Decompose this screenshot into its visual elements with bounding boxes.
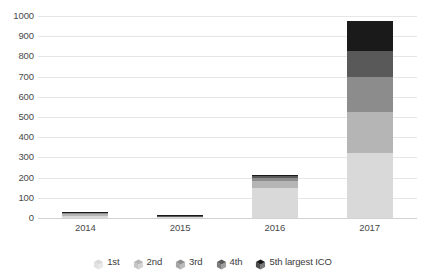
x-tick-label: 2016 (265, 222, 286, 234)
y-tick-label: 100 (0, 193, 34, 203)
legend-item[interactable]: 5th largest ICO (255, 256, 331, 267)
bar-segment[interactable] (347, 112, 393, 153)
y-tick-label: 900 (0, 31, 34, 41)
y-tick-label: 800 (0, 51, 34, 61)
cube-icon (133, 256, 144, 267)
plot-area (38, 16, 417, 218)
cube-icon (175, 256, 186, 267)
bar-segment[interactable] (252, 176, 298, 178)
bar-segment[interactable] (347, 77, 393, 112)
y-tick-label: 1000 (0, 11, 34, 21)
bar-segment[interactable] (252, 181, 298, 187)
legend-item[interactable]: 2nd (133, 256, 163, 267)
legend-label: 5th largest ICO (269, 256, 331, 267)
x-tick-label: 2014 (75, 222, 96, 234)
bar-segment[interactable] (252, 178, 298, 181)
bar-group[interactable] (62, 16, 108, 218)
y-tick-label: 600 (0, 92, 34, 102)
y-tick-label: 700 (0, 72, 34, 82)
bar-segment[interactable] (157, 216, 203, 217)
y-tick-label: 200 (0, 173, 34, 183)
bar-segment[interactable] (252, 175, 298, 176)
legend-item[interactable]: 4th (216, 256, 243, 267)
bar-segment[interactable] (157, 217, 203, 218)
cube-icon (255, 256, 266, 267)
y-tick-label: 300 (0, 152, 34, 162)
y-tick-label: 500 (0, 112, 34, 122)
axis-zero-line (38, 218, 417, 219)
bar-group[interactable] (347, 16, 393, 218)
bar-segment[interactable] (62, 212, 108, 213)
bar-segment[interactable] (347, 153, 393, 218)
chart-legend: 1st2nd3rd4th5th largest ICO (0, 252, 425, 270)
stacked-bar-chart: 01002003004005006007008009001000 2014201… (0, 0, 425, 279)
bar-segment[interactable] (347, 51, 393, 77)
legend-label: 3rd (189, 256, 202, 267)
bar-segment[interactable] (347, 21, 393, 51)
legend-label: 1st (107, 256, 119, 267)
bar-group[interactable] (252, 16, 298, 218)
y-tick-label: 400 (0, 132, 34, 142)
bar-segment[interactable] (62, 214, 108, 215)
x-axis: 2014201520162017 (38, 222, 417, 238)
legend-label: 2nd (147, 256, 163, 267)
cube-icon (216, 256, 227, 267)
x-tick-label: 2017 (359, 222, 380, 234)
x-tick-label: 2015 (170, 222, 191, 234)
bar-segment[interactable] (62, 213, 108, 214)
legend-item[interactable]: 1st (93, 256, 119, 267)
bar-group[interactable] (157, 16, 203, 218)
legend-item[interactable]: 3rd (175, 256, 202, 267)
y-axis: 01002003004005006007008009001000 (0, 16, 34, 218)
legend-label: 4th (230, 256, 243, 267)
y-tick-label: 0 (0, 213, 34, 223)
bar-segment[interactable] (252, 188, 298, 218)
bar-segment[interactable] (62, 216, 108, 218)
cube-icon (93, 256, 104, 267)
